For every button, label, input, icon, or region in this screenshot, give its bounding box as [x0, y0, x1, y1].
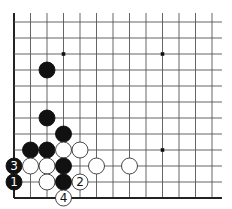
white-stone [72, 142, 88, 158]
white-stone [89, 158, 105, 174]
black-stone-icon [56, 174, 72, 190]
black-stone-icon [39, 110, 55, 126]
black-stone [39, 142, 55, 158]
white-stone-icon [39, 158, 55, 174]
white-stone-icon [56, 142, 72, 158]
black-stone [56, 126, 72, 142]
white-stone [39, 174, 55, 190]
white-stone-icon [72, 142, 88, 158]
white-stone-icon [39, 174, 55, 190]
go-board-diagram: 3124 [0, 0, 232, 209]
black-stone [23, 142, 39, 158]
white-stone-icon [122, 158, 138, 174]
black-stone [56, 174, 72, 190]
move-number-label: 2 [76, 175, 84, 189]
white-stone-move-4: 4 [56, 190, 72, 206]
black-stone-icon [39, 62, 55, 78]
black-stone [39, 62, 55, 78]
move-number-label: 4 [60, 191, 68, 205]
star-point-icon [62, 52, 66, 56]
star-point-icon [161, 52, 165, 56]
black-stone [56, 158, 72, 174]
white-stone [39, 158, 55, 174]
white-stone [56, 142, 72, 158]
black-stone-icon [39, 142, 55, 158]
black-stone-move-1: 1 [6, 174, 22, 190]
black-stone [39, 110, 55, 126]
move-number-label: 1 [10, 175, 18, 189]
black-stone-icon [56, 126, 72, 142]
white-stone-icon [23, 158, 39, 174]
white-stone [23, 158, 39, 174]
white-stone [122, 158, 138, 174]
move-number-label: 3 [10, 159, 18, 173]
white-stone-move-2: 2 [72, 174, 88, 190]
black-stone-icon [56, 158, 72, 174]
black-stone-icon [23, 142, 39, 158]
star-point-icon [161, 148, 165, 152]
black-stone-move-3: 3 [6, 158, 22, 174]
white-stone-icon [89, 158, 105, 174]
